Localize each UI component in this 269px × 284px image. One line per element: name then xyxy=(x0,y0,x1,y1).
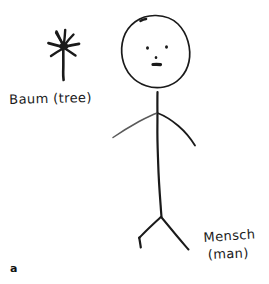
tree-branch xyxy=(56,33,63,44)
head-stroke-overlap xyxy=(141,19,147,21)
figure-panel: Baum (tree) Mensch (man) a xyxy=(0,0,269,284)
torso-line xyxy=(157,92,161,217)
right-leg xyxy=(162,218,189,250)
nose xyxy=(155,56,158,59)
tree-crown-core xyxy=(59,43,68,50)
left-arm xyxy=(113,113,157,138)
left-foot xyxy=(139,238,141,248)
stick-figure-sketch xyxy=(113,15,195,249)
tree-sketch xyxy=(49,30,80,80)
tree-branch xyxy=(51,49,63,57)
panel-letter: a xyxy=(10,262,17,275)
man-label-german: Mensch xyxy=(203,226,256,245)
tree-label: Baum (tree) xyxy=(9,90,92,108)
man-label-english: (man) xyxy=(207,245,257,263)
right-arm xyxy=(158,113,196,146)
left-eye xyxy=(146,46,149,50)
left-leg xyxy=(139,217,161,238)
head-outline xyxy=(122,15,190,87)
man-label: Mensch (man) xyxy=(203,226,257,264)
tree-branch xyxy=(65,49,76,56)
right-eye xyxy=(165,45,168,49)
